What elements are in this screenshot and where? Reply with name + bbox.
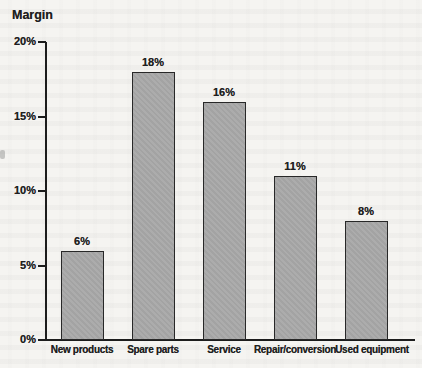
bar-value-label: 16% xyxy=(194,86,254,98)
y-tick-mark xyxy=(38,41,46,43)
y-tick-label: 20% xyxy=(2,35,36,47)
x-category-label: Used equipment xyxy=(312,344,422,355)
bar-repair-conversion xyxy=(274,176,317,340)
scanned-book-page: Margin 0%5%10%15%20%6%New products18%Spa… xyxy=(0,0,422,368)
margin-bar-chart: Margin 0%5%10%15%20%6%New products18%Spa… xyxy=(0,0,422,368)
y-tick-label: 10% xyxy=(2,184,36,196)
bar-value-label: 8% xyxy=(336,205,396,217)
chart-title: Margin xyxy=(12,8,53,22)
bar-used-equipment xyxy=(345,221,388,340)
y-tick-mark xyxy=(38,265,46,267)
y-tick-label: 5% xyxy=(2,259,36,271)
bar-spare-parts xyxy=(132,72,175,340)
y-tick-mark xyxy=(38,116,46,118)
bar-value-label: 6% xyxy=(52,235,112,247)
y-tick-mark xyxy=(38,190,46,192)
y-tick-mark xyxy=(38,339,46,341)
y-tick-label: 15% xyxy=(2,110,36,122)
bar-value-label: 11% xyxy=(265,160,325,172)
bar-new-products xyxy=(61,251,104,340)
bar-service xyxy=(203,102,246,340)
bar-value-label: 18% xyxy=(123,56,183,68)
